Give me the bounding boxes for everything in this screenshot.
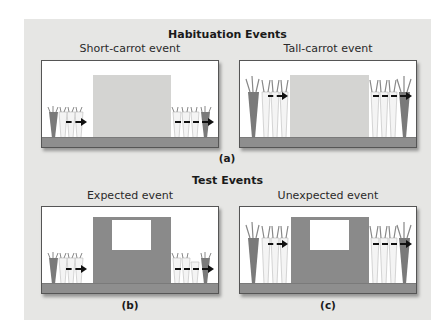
test-title: Test Events xyxy=(24,174,431,187)
tall-carrots-right-icon xyxy=(369,222,415,284)
motion-arrow-icon xyxy=(66,268,81,270)
expected-event-panel xyxy=(41,206,219,294)
tall-carrots-left-icon xyxy=(244,222,290,284)
motion-arrow-icon xyxy=(268,95,282,97)
expected-event-label: Expected event xyxy=(41,189,219,202)
screen-light xyxy=(93,75,171,138)
ground xyxy=(240,137,416,147)
screen-window xyxy=(112,220,151,250)
tall-carrot-event-panel xyxy=(239,60,417,148)
screen-dark xyxy=(291,217,369,284)
ground xyxy=(42,283,218,293)
motion-arrow-icon xyxy=(66,121,81,123)
ground xyxy=(240,283,416,293)
habituation-title: Habituation Events xyxy=(24,28,431,41)
tall-carrots-left-icon xyxy=(244,76,290,138)
screen-light xyxy=(290,75,369,138)
tall-carrots-right-icon xyxy=(369,76,415,138)
tall-carrot-event-label: Tall-carrot event xyxy=(239,42,417,55)
motion-arrow-icon xyxy=(175,268,208,270)
motion-arrow-icon xyxy=(373,243,406,245)
label-c: (c) xyxy=(239,299,417,311)
short-carrot-event-panel xyxy=(41,60,219,148)
unexpected-event-label: Unexpected event xyxy=(239,189,417,202)
label-a: (a) xyxy=(138,152,316,164)
motion-arrow-icon xyxy=(373,95,406,97)
unexpected-event-panel xyxy=(239,206,417,294)
motion-arrow-icon xyxy=(175,121,208,123)
screen-window xyxy=(310,220,349,250)
screen-dark xyxy=(93,217,171,284)
ground xyxy=(42,137,218,147)
label-b: (b) xyxy=(41,299,219,311)
motion-arrow-icon xyxy=(268,243,282,245)
figure-panel: Habituation Events Short-carrot event Ta… xyxy=(24,19,431,320)
short-carrot-event-label: Short-carrot event xyxy=(41,42,219,55)
